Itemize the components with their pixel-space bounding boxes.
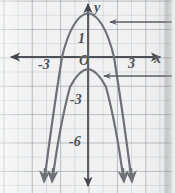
- x-tick-label-3: 3: [128, 56, 135, 72]
- graph-figure: y x O -3 3 1 -3 -6: [0, 0, 175, 193]
- y-tick-label-1: 1: [78, 31, 85, 47]
- x-axis-label: x: [154, 51, 161, 67]
- graph-drawing: [0, 0, 175, 193]
- y-axis-label: y: [94, 0, 100, 16]
- y-tick-label-minus3: -3: [70, 92, 82, 108]
- y-tick-label-minus6: -6: [69, 134, 81, 150]
- x-tick-label-minus3: -3: [38, 57, 50, 73]
- origin-label: O: [79, 53, 89, 69]
